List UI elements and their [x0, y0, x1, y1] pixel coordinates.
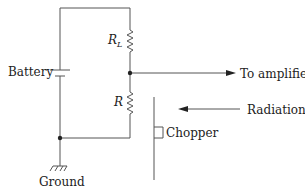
detector-resistor-label: R — [114, 96, 123, 108]
output-arrowhead-icon — [226, 70, 236, 76]
radiation-label: Radiation — [247, 104, 305, 116]
battery-label: Battery — [8, 66, 53, 78]
chopper-label: Chopper — [166, 127, 218, 139]
load-resistor-symbol: R — [108, 33, 117, 47]
ground-label: Ground — [39, 176, 85, 188]
circuit-schematic — [0, 0, 305, 194]
chopper-tab — [154, 127, 163, 138]
load-resistor-subscript: L — [117, 40, 122, 49]
junction-dot-ground — [58, 136, 62, 140]
output-label: To amplifier — [240, 68, 305, 80]
junction-dot-output — [128, 71, 132, 75]
circuit-diagram: Battery RL R To amplifier Radiation Chop… — [0, 0, 305, 194]
load-resistor-label: RL — [108, 34, 122, 49]
radiation-arrowhead-icon — [178, 106, 188, 112]
load-resistor-icon — [127, 30, 133, 92]
